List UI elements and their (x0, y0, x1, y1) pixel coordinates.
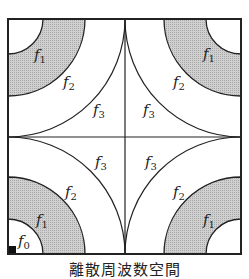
label-center-tl-f3: f3 (92, 101, 105, 120)
figure-caption: 離散周波数空間 (0, 258, 249, 279)
label-br-f2: f2 (172, 183, 185, 202)
frequency-space-diagram: f1 f2 f1 f2 f3 f3 f3 f3 f2 f1 f0 f2 f1 (0, 0, 249, 256)
label-center-br-f3: f3 (144, 153, 157, 172)
label-bl-f0: f0 (17, 232, 30, 251)
label-tl-f2: f2 (62, 73, 75, 92)
label-tr-f2: f2 (172, 73, 185, 92)
label-bl-f2: f2 (64, 183, 77, 202)
label-center-bl-f3: f3 (94, 153, 107, 172)
label-center-tr-f3: f3 (142, 101, 155, 120)
dc-origin-marker (8, 246, 16, 254)
